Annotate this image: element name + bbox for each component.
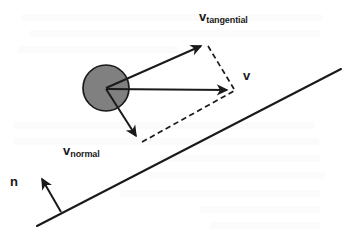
label-v-resultant-symbol: v [243, 68, 250, 83]
label-v-resultant: v [243, 67, 250, 83]
label-v-tangential: vtangential [199, 8, 248, 25]
label-v-normal: vnormal [63, 142, 100, 159]
label-surface-normal: n [10, 173, 18, 189]
velocity-decomposition-figure: vtangential v vnormal n [0, 0, 356, 236]
diagram-canvas [0, 0, 356, 236]
vector-surface-normal [42, 179, 61, 212]
label-v-normal-subscript: normal [70, 149, 99, 159]
vector-v-tangential [106, 46, 201, 88]
label-surface-normal-symbol: n [10, 174, 18, 189]
label-v-tangential-subscript: tangential [206, 15, 248, 25]
vector-v-resultant [106, 89, 227, 90]
dashed-construction-tangential [208, 46, 234, 89]
dashed-construction-normal [142, 91, 234, 142]
